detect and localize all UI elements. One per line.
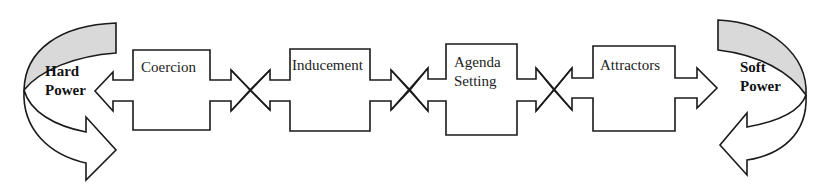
stage-label-attractors: Attractors [600,58,660,73]
stage-label-coercion: Coercion [141,60,196,75]
soft-power-curved-arrow-icon [718,20,806,175]
power-spectrum-diagram [0,0,827,191]
hard-power-label-line1: Hard [45,64,79,79]
soft-power-label-line2: Power [740,79,781,94]
soft-power-label-line1: Soft [740,60,766,75]
hard-power-label-line2: Power [45,83,86,98]
stage-label-inducement: Inducement [292,58,363,73]
hard-power-curved-arrow-icon [24,23,116,180]
stage-label-agenda: Agenda [454,55,501,70]
stage-label-setting: Setting [454,74,497,89]
